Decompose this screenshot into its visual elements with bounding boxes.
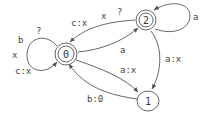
edge-label: a bbox=[120, 45, 125, 55]
edge-2-2 bbox=[154, 4, 190, 32]
edge-label: a:x bbox=[165, 54, 182, 64]
state-2: 2 bbox=[136, 10, 156, 30]
state-1: 1 bbox=[137, 91, 159, 111]
edge-label: x bbox=[12, 50, 18, 60]
svg-text:0: 0 bbox=[63, 49, 69, 60]
edge-0-0 bbox=[27, 38, 57, 70]
edge-label: a bbox=[193, 12, 198, 22]
svg-text:1: 1 bbox=[145, 96, 151, 107]
edge-2-1 bbox=[151, 31, 160, 89]
edge-label: c:x bbox=[15, 66, 32, 76]
state-0: 0 bbox=[55, 43, 77, 65]
edge-label: x bbox=[101, 11, 107, 21]
edge-label: b:0 bbox=[87, 94, 103, 104]
svg-text:2: 2 bbox=[143, 15, 149, 26]
edge-label: ? bbox=[117, 7, 122, 17]
edge-0-2 bbox=[78, 28, 138, 52]
diagram-svg: 0 2 1 b ? x c:x a c:x x ? a a:x a:x b:0 bbox=[0, 0, 207, 124]
edge-label: b bbox=[18, 35, 23, 45]
edge-label: a:x bbox=[120, 65, 137, 75]
edge-label: c:x bbox=[71, 18, 88, 28]
edge-label: ? bbox=[36, 26, 41, 36]
automaton-diagram: 0 2 1 b ? x c:x a c:x x ? a a:x a:x b:0 bbox=[0, 0, 207, 124]
